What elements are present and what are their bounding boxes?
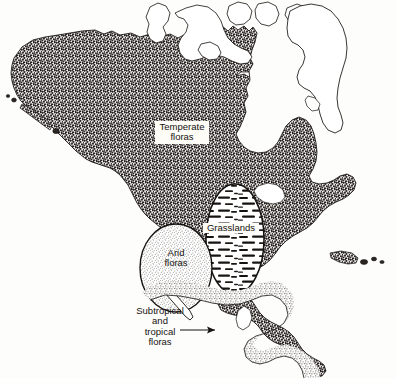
caribbean-islands xyxy=(330,251,384,264)
greenland xyxy=(287,4,347,133)
map-canvas xyxy=(0,0,397,379)
map-figure: Temperate floras Grasslands Arid floras … xyxy=(0,0,397,379)
subtropical-leader-arrow xyxy=(180,327,215,334)
region-subtropical-tropical-floras xyxy=(130,280,330,379)
